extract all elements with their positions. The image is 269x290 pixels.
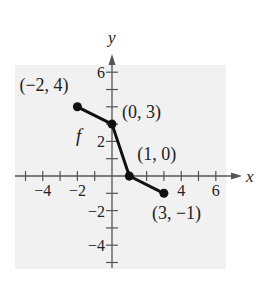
x-tick-label: −4 — [34, 182, 51, 199]
function-graph: −4−24662−2−4 (−2, 4)(0, 3)(1, 0)(3, −1) … — [0, 0, 269, 290]
data-point — [108, 120, 117, 129]
x-tick-label: −2 — [69, 182, 86, 199]
point-label: (−2, 4) — [19, 75, 68, 96]
point-label: (3, −1) — [152, 203, 201, 224]
point-label: (1, 0) — [137, 144, 176, 165]
data-point — [159, 189, 168, 198]
y-tick-label: −2 — [88, 203, 105, 220]
x-tick-label: 6 — [212, 182, 220, 199]
y-tick-label: −4 — [88, 237, 105, 254]
y-tick-label: 2 — [97, 133, 105, 150]
point-label: (0, 3) — [122, 102, 161, 123]
x-tick-label: 4 — [177, 182, 185, 199]
x-axis-label: x — [245, 167, 254, 186]
data-point — [125, 172, 134, 181]
y-axis-arrow-icon — [109, 54, 116, 65]
y-axis-label: y — [106, 28, 116, 47]
data-point — [73, 102, 82, 111]
plot-background — [15, 65, 226, 269]
y-tick-label: 6 — [97, 64, 105, 81]
x-axis-arrow-icon — [231, 173, 242, 180]
